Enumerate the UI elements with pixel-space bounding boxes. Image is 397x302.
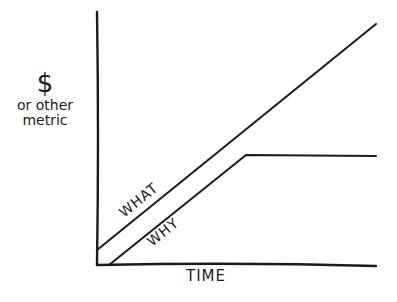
x-axis <box>97 264 376 266</box>
y-axis-label: or other metric <box>6 98 84 127</box>
what-line <box>97 24 376 250</box>
chart-canvas: WHAT WHY <box>0 0 397 302</box>
x-axis-label: TIME <box>186 269 226 285</box>
y-axis <box>97 12 98 265</box>
y-axis-dollar-symbol: $ <box>30 70 60 97</box>
why-line <box>109 155 376 265</box>
what-label: WHAT <box>116 179 161 220</box>
why-label: WHY <box>144 214 182 249</box>
